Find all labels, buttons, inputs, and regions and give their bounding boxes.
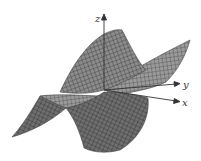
y-axis-label: y [182,79,189,90]
x-axis-label: x [182,97,188,108]
x-axis-arrow-icon [174,99,180,104]
surface-plot-svg: z y x [0,0,201,161]
surface-plot-figure: z y x [0,0,201,161]
z-axis-label: z [94,13,101,24]
z-axis-arrow-icon [102,14,107,20]
y-axis-arrow-icon [174,82,180,87]
